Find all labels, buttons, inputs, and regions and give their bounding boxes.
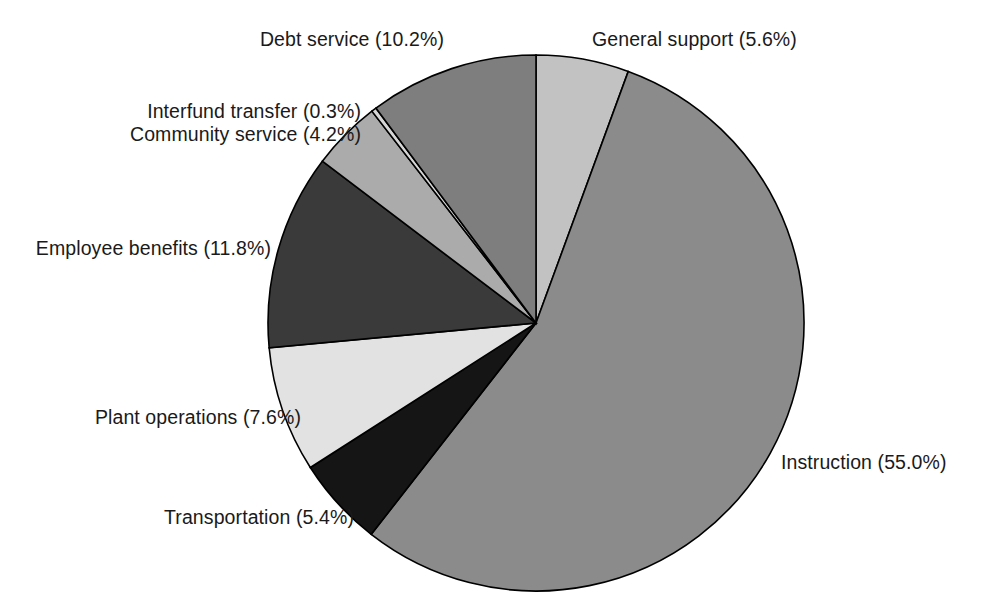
pie-label-debt-service: Debt service (10.2%) (260, 28, 444, 51)
pie-label-transportation: Transportation (5.4%) (164, 506, 354, 529)
pie-label-interfund-transfer: Interfund transfer (0.3%) (147, 100, 361, 123)
pie-label-employee-benefits: Employee benefits (11.8%) (36, 237, 271, 260)
pie-chart-svg: General support (5.6%)Instruction (55.0%… (0, 0, 997, 614)
pie-label-instruction: Instruction (55.0%) (781, 451, 947, 474)
pie-label-general-support: General support (5.6%) (592, 28, 797, 51)
pie-label-plant-operations: Plant operations (7.6%) (95, 406, 301, 429)
pie-label-community-service: Community service (4.2%) (130, 123, 361, 146)
pie-chart-figure: General support (5.6%)Instruction (55.0%… (0, 0, 997, 614)
pie-chart-page: General support (5.6%)Instruction (55.0%… (0, 0, 997, 614)
